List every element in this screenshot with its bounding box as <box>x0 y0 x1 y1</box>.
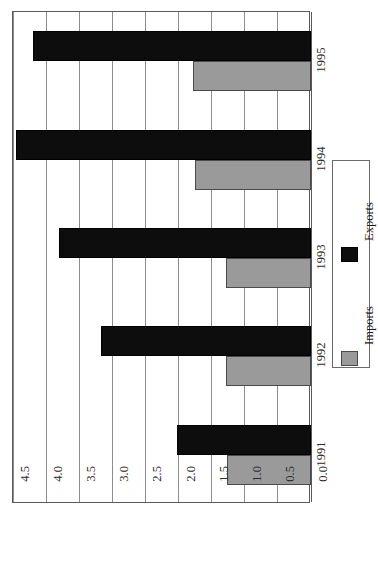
tick-label-3.5: 3.5 <box>84 466 99 508</box>
gridline-4.0 <box>46 12 47 502</box>
plot-area <box>12 11 310 503</box>
bar-imports-1994 <box>195 160 311 190</box>
bar-imports-1991 <box>227 455 311 485</box>
bar-exports-1992 <box>101 326 311 356</box>
tick-label-0.5: 0.5 <box>283 466 298 508</box>
tick-label-4.5: 4.5 <box>18 466 33 508</box>
bar-exports-1994 <box>16 130 311 160</box>
bar-exports-1993 <box>59 228 311 258</box>
gridline-4.5 <box>13 12 14 502</box>
category-label-1993: 1993 <box>313 227 329 287</box>
bar-exports-1991 <box>177 425 311 455</box>
legend-swatch-exports <box>341 247 358 262</box>
bar-imports-1993 <box>226 258 311 288</box>
tick-label-0.0: 0.0 <box>316 466 331 508</box>
bar-imports-1992 <box>226 356 311 386</box>
bar-imports-1995 <box>193 61 311 91</box>
category-label-1992: 1992 <box>313 325 329 385</box>
tick-label-1.5: 1.5 <box>217 466 232 508</box>
tick-label-1.0: 1.0 <box>250 466 265 508</box>
legend-label-exports: Exports <box>361 161 377 241</box>
tick-label-2.5: 2.5 <box>150 466 165 508</box>
tick-label-2.0: 2.0 <box>184 466 199 508</box>
legend-swatch-imports <box>341 351 358 366</box>
category-label-1994: 1994 <box>313 129 329 189</box>
tick-label-3.0: 3.0 <box>117 466 132 508</box>
legend-label-imports: Imports <box>361 265 377 345</box>
tick-label-4.0: 4.0 <box>51 466 66 508</box>
category-label-1995: 1995 <box>313 30 329 90</box>
bar-exports-1995 <box>33 31 311 61</box>
chart-legend: ImportsExports <box>332 160 370 368</box>
bar-chart: 19911992199319941995 0.00.51.01.52.02.53… <box>0 0 378 563</box>
